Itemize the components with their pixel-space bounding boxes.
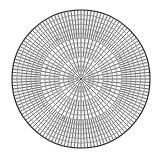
stitch-tick [88,25,89,29]
center-dot [80,78,82,80]
stitch-tick [88,129,89,133]
stitch-tick [72,138,73,142]
stitch-tick [32,86,36,87]
stitch-tick [18,88,22,89]
stitch-tick [122,72,126,73]
stitch-tick [90,138,91,142]
stitch-tick [89,134,90,138]
stitch-tick [88,30,89,34]
noise-speck [63,117,65,119]
stitch-tick [36,72,40,73]
noise-speck [119,57,121,59]
stitch-tick [89,20,90,24]
stitch-tick [126,72,130,73]
stitch-tick [140,70,144,71]
stitch-tick [122,85,126,86]
noise-speck [96,32,98,34]
stitch-tick [13,88,17,89]
stitch-tick [136,87,140,88]
noise-speck [43,105,45,107]
stitch-tick [22,70,26,71]
stitch-tick [74,30,75,34]
stitch-tick [90,143,91,147]
polar-mesh-doily-chart [0,0,160,164]
stitch-tick [131,86,135,87]
stitch-tick [90,16,91,20]
stitch-tick [27,86,31,87]
noise-speck [109,89,111,91]
noise-speck [69,23,71,25]
noise-speck [56,38,59,41]
stitch-tick [13,69,17,70]
stitch-tick [71,143,72,147]
stitch-tick [71,11,72,15]
stitch-tick [72,20,73,24]
stitch-tick [90,11,91,15]
stitch-tick [18,70,22,71]
noise-speck [46,67,48,69]
stitch-tick [126,86,130,87]
stitch-tick [32,72,36,73]
stitch-tick [131,71,135,72]
stitch-tick [74,124,75,128]
stitch-tick [88,124,89,128]
stitch-tick [145,88,149,89]
stitch-tick [36,85,40,86]
noise-speck [98,127,100,129]
stitch-tick [73,25,74,29]
stitch-tick [73,129,74,133]
stitch-tick [74,34,75,38]
stitch-tick [27,71,31,72]
stitch-tick [140,88,144,89]
stitch-tick [145,69,149,70]
stitch-tick [87,120,88,124]
noise-speck [87,47,89,49]
stitch-tick [22,87,26,88]
stitch-tick [87,34,88,38]
stitch-tick [72,134,73,138]
stitch-tick [74,120,75,124]
stitch-tick [72,16,73,20]
stitch-tick [136,70,140,71]
screenshot-root [0,0,160,164]
